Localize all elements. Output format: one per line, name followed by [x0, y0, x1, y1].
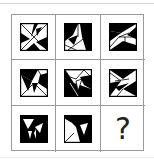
figure-pinwheel-icon [20, 69, 48, 97]
figure-pinwheel-icon [64, 23, 92, 51]
matrix-cell-r3c3-missing: ? [101, 106, 145, 152]
matrix-cell-r1c1 [12, 15, 56, 60]
puzzle-matrix: ? [11, 14, 144, 151]
matrix-cell-r2c2 [56, 60, 101, 106]
figure-pinwheel-icon [64, 69, 92, 97]
bottom-divider [0, 157, 154, 158]
question-mark: ? [101, 114, 145, 144]
figure-pinwheel-icon [109, 69, 137, 97]
matrix-cell-r3c2 [56, 106, 101, 152]
matrix-cell-r2c1 [12, 60, 56, 106]
figure-pinwheel-icon [109, 23, 137, 51]
top-divider [0, 3, 154, 4]
matrix-cell-r2c3 [101, 60, 145, 106]
matrix-cell-r1c3 [101, 15, 145, 60]
figure-pinwheel-icon [64, 115, 92, 143]
figure-pinwheel-icon [20, 23, 48, 51]
matrix-cell-r1c2 [56, 15, 101, 60]
matrix-cell-r3c1 [12, 106, 56, 152]
figure-pinwheel-icon [20, 115, 48, 143]
